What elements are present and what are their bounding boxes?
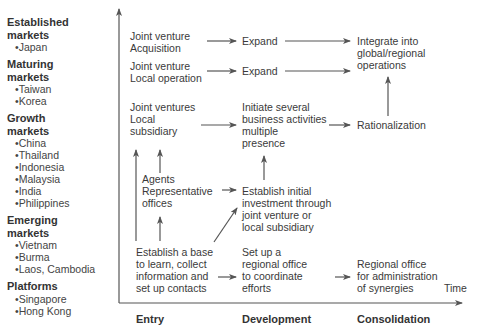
node-line: Joint venture xyxy=(130,60,202,72)
node-line: presence xyxy=(242,137,327,149)
phase-entry: Entry xyxy=(136,313,164,325)
node-jv-acquisition: Joint venture Acquisition xyxy=(130,30,190,54)
node-line: investment through xyxy=(242,197,331,209)
node-line: Local operation xyxy=(130,72,202,84)
node-line: Agents xyxy=(142,173,213,185)
node-line: Establish a base xyxy=(136,246,213,258)
node-line: to coordinate xyxy=(242,270,307,282)
node-line: information and xyxy=(136,270,213,282)
node-line: business activities xyxy=(242,113,327,125)
node-line: multiple xyxy=(242,125,327,137)
node-jv-local-operation: Joint venture Local operation xyxy=(130,60,202,84)
node-line: offices xyxy=(142,197,213,209)
node-line: Expand xyxy=(242,65,278,77)
node-line: to learn, collect xyxy=(136,258,213,270)
node-establish-base: Establish a base to learn, collect infor… xyxy=(136,246,213,294)
node-rationalization: Rationalization xyxy=(357,119,426,131)
node-line: of synergies xyxy=(357,282,438,294)
node-line: for administration xyxy=(357,270,438,282)
node-establish-initial: Establish initial investment through joi… xyxy=(242,185,331,233)
phase-development: Development xyxy=(242,313,311,325)
node-line: operations xyxy=(357,59,425,71)
node-line: global/regional xyxy=(357,47,425,59)
node-line: regional office xyxy=(242,258,307,270)
node-regional-admin: Regional office for administration of sy… xyxy=(357,258,438,294)
node-line: Initiate several xyxy=(242,101,327,113)
node-line: Establish initial xyxy=(242,185,331,197)
node-line: joint venture or xyxy=(242,209,331,221)
node-agents: Agents Representative offices xyxy=(142,173,213,209)
node-line: subsidiary xyxy=(130,125,195,137)
node-line: local subsidiary xyxy=(242,221,331,233)
node-line: Joint venture xyxy=(130,30,190,42)
node-line: Rationalization xyxy=(357,119,426,131)
node-line: Expand xyxy=(242,35,278,47)
node-line: Joint ventures xyxy=(130,101,195,113)
node-expand-1: Expand xyxy=(242,35,278,47)
node-jv-subsidiary: Joint ventures Local subsidiary xyxy=(130,101,195,137)
node-line: Set up a xyxy=(242,246,307,258)
node-line: Regional office xyxy=(357,258,438,270)
phase-consolidation: Consolidation xyxy=(357,313,430,325)
node-line: Integrate into xyxy=(357,35,425,47)
node-integrate: Integrate into global/regional operation… xyxy=(357,35,425,71)
node-line: Local xyxy=(130,113,195,125)
node-setup-regional: Set up a regional office to coordinate e… xyxy=(242,246,307,294)
x-axis-label-time: Time xyxy=(444,282,467,294)
node-line: Acquisition xyxy=(130,42,190,54)
node-line: Representative xyxy=(142,185,213,197)
node-line: efforts xyxy=(242,282,307,294)
node-initiate-several: Initiate several business activities mul… xyxy=(242,101,327,149)
node-expand-2: Expand xyxy=(242,65,278,77)
node-line: set up contacts xyxy=(136,282,213,294)
